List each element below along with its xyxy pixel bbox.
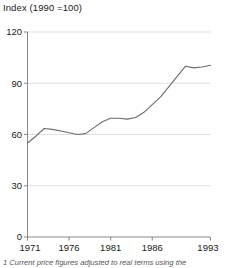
line-chart-plot: 030609012019711976198119861993: [0, 0, 234, 268]
y-tick-label: 30: [11, 180, 22, 191]
x-tick-label: 1976: [59, 242, 80, 253]
y-tick-label: 120: [6, 26, 22, 37]
chart-footnote: 1 Current price figures adjusted to real…: [3, 258, 231, 267]
x-tick-label: 1993: [197, 242, 218, 253]
y-tick-label: 60: [11, 129, 22, 140]
x-tick-label: 1981: [100, 242, 121, 253]
x-tick-label: 1971: [20, 242, 41, 253]
y-tick-label: 0: [17, 231, 22, 242]
data-series-line: [28, 65, 211, 143]
x-tick-label: 1986: [142, 242, 163, 253]
y-tick-label: 90: [11, 78, 22, 89]
chart-figure: Index (1990 =100) 0306090120197119761981…: [0, 0, 234, 268]
